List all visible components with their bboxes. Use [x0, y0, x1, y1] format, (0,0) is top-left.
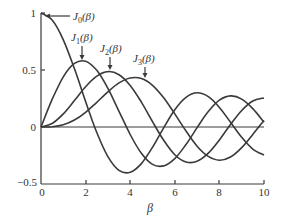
curve-j1	[41, 61, 264, 167]
label-j3: J3(β)	[133, 52, 155, 78]
svg-text:J2(β): J2(β)	[100, 42, 122, 57]
y-label-1: 1	[31, 7, 37, 19]
svg-text:J1(β): J1(β)	[71, 31, 93, 46]
x-axis-title: β	[146, 201, 153, 215]
bessel-chart: 1 0.5 0 −0.5 0 2 4 6 8 10 β J0(β) J1(β) …	[0, 0, 283, 217]
y-label-0: 0	[31, 121, 37, 133]
y-label-m05: −0.5	[17, 176, 37, 188]
arrowhead-j2	[108, 65, 113, 70]
label-j0: J0(β)	[45, 10, 95, 25]
x-label-6: 6	[172, 186, 178, 198]
y-label-05: 0.5	[22, 64, 36, 76]
x-label-4: 4	[127, 186, 133, 198]
svg-text:J0(β): J0(β)	[73, 10, 95, 25]
arrowhead-j1	[80, 55, 85, 60]
arrowhead-j0	[45, 14, 50, 19]
arrowhead-j3	[143, 73, 148, 78]
x-label-0: 0	[39, 186, 45, 198]
x-label-10: 10	[259, 186, 271, 198]
x-label-2: 2	[83, 186, 89, 198]
svg-text:J3(β): J3(β)	[133, 52, 155, 67]
label-j2: J2(β)	[100, 42, 122, 70]
label-j1: J1(β)	[71, 31, 93, 60]
x-label-8: 8	[216, 186, 222, 198]
